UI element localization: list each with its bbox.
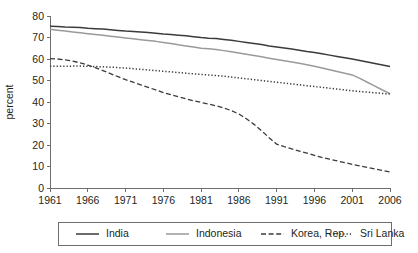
x-tick-label: 1961	[38, 194, 62, 206]
legend-label-sri-lanka: Sri Lanka	[360, 227, 405, 239]
series-line-india	[50, 26, 390, 66]
legend-label-indonesia: Indonesia	[196, 227, 242, 239]
y-tick-label: 0	[38, 182, 44, 194]
x-tick-label: 1986	[227, 194, 251, 206]
y-tick-label: 30	[32, 117, 44, 129]
legend-label-india: India	[106, 227, 129, 239]
y-tick-label: 70	[32, 31, 44, 43]
series-lines	[50, 26, 390, 172]
x-tick-label: 1996	[303, 194, 327, 206]
x-tick-label: 1991	[265, 194, 289, 206]
x-tick-label: 1971	[114, 194, 138, 206]
legend-label-korea-rep: Korea, Rep.	[291, 227, 347, 239]
y-tick-label: 40	[32, 96, 44, 108]
x-tick-label: 2006	[378, 194, 402, 206]
x-tick-label: 2001	[341, 194, 365, 206]
chart-legend: IndiaIndonesiaKorea, Rep.Sri Lanka	[59, 223, 405, 246]
y-tick-label: 60	[32, 53, 44, 65]
y-axis-title: percent	[3, 84, 15, 119]
y-tick-label: 10	[32, 160, 44, 172]
line-chart: 01020304050607080 1961196619711976198119…	[0, 0, 418, 253]
x-tick-label: 1976	[152, 194, 176, 206]
x-tick-label: 1981	[189, 194, 213, 206]
y-tick-label: 80	[32, 10, 44, 22]
x-tick-label: 1966	[76, 194, 100, 206]
y-tick-label: 50	[32, 74, 44, 86]
series-line-korea-rep	[50, 59, 390, 172]
y-tick-label: 20	[32, 139, 44, 151]
x-axis: 1961196619711976198119861991199620012006	[38, 188, 402, 206]
y-axis: 01020304050607080	[32, 10, 50, 194]
chart-container: 01020304050607080 1961196619711976198119…	[0, 0, 418, 253]
series-line-sri-lanka	[50, 66, 390, 94]
